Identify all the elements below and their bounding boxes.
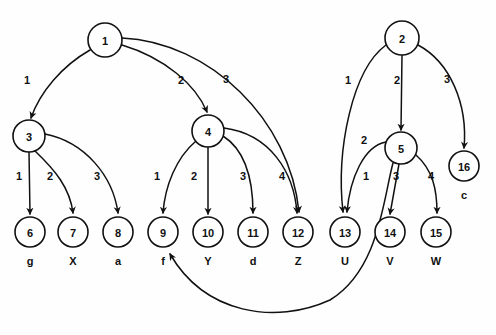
node-label-1: 1 (102, 35, 108, 47)
node-4[interactable]: 4 (192, 115, 224, 147)
node-6[interactable]: 6 (15, 217, 45, 247)
leaf-label-16: c (461, 189, 467, 201)
leaf-label-6: g (27, 255, 34, 267)
node-15[interactable]: 15 (421, 217, 451, 247)
node-2[interactable]: 2 (385, 21, 419, 55)
node-14[interactable]: 14 (375, 217, 405, 247)
node-label-13: 13 (339, 227, 351, 239)
edge-label-n5-n15: 4 (428, 170, 435, 182)
node-7[interactable]: 7 (58, 217, 88, 247)
edge-label-n4-n11: 3 (240, 170, 246, 182)
edge-label-n1-n4: 2 (178, 74, 184, 86)
edge-label-n2-n16: 3 (444, 73, 450, 85)
leaf-label-14: V (386, 255, 394, 267)
edge-label-n3-n6: 1 (16, 170, 22, 182)
leaf-label-9: f (161, 255, 165, 267)
node-label-2: 2 (399, 33, 405, 45)
node-16[interactable]: 16 (449, 151, 479, 181)
edge-label-n1-n12: 3 (223, 73, 229, 85)
node-label-14: 14 (384, 227, 397, 239)
node-13[interactable]: 13 (330, 217, 360, 247)
edge-label-n2-n5: 2 (394, 74, 400, 86)
node-label-16: 16 (458, 161, 470, 173)
node-8[interactable]: 8 (103, 217, 133, 247)
node-5[interactable]: 5 (385, 132, 417, 164)
edge-label-n5-n13: 2 (361, 134, 367, 146)
diagram-canvas: 12345678910111213141516 1231231234123213… (0, 0, 496, 335)
node-label-3: 3 (26, 131, 32, 143)
leaf-label-10: Y (204, 255, 212, 267)
node-10[interactable]: 10 (193, 217, 223, 247)
edge-label-n5-n9: 1 (363, 170, 369, 182)
leaf-label-12: Z (295, 255, 302, 267)
edge-n3-to-n7 (35, 151, 73, 213)
node-label-7: 7 (70, 227, 76, 239)
edge-label-n4-n12: 4 (279, 170, 286, 182)
edge-labels-layer: 12312312341232134 (16, 73, 450, 182)
node-label-8: 8 (115, 227, 121, 239)
leaf-label-11: d (250, 255, 257, 267)
edge-n5-to-n15 (416, 155, 437, 213)
node-label-15: 15 (430, 227, 442, 239)
node-label-4: 4 (205, 126, 212, 138)
node-12[interactable]: 12 (283, 217, 313, 247)
node-label-6: 6 (27, 227, 33, 239)
node-label-12: 12 (292, 227, 304, 239)
edge-n2-to-n5 (401, 55, 402, 130)
edge-n2-to-n16 (418, 45, 465, 148)
node-label-11: 11 (247, 227, 259, 239)
edge-n2-to-n13 (341, 45, 386, 212)
edge-label-n3-n8: 3 (94, 170, 100, 182)
edge-n3-to-n6 (29, 152, 30, 214)
edge-n4-to-n12 (224, 128, 297, 213)
edge-label-n3-n7: 2 (47, 170, 53, 182)
edge-label-n2-n13: 1 (345, 74, 351, 86)
leaf-label-13: U (341, 255, 349, 267)
edge-label-n4-n10: 2 (191, 170, 197, 182)
leaf-label-8: a (115, 255, 122, 267)
node-label-5: 5 (398, 143, 404, 155)
edge-label-n1-n3: 1 (24, 74, 30, 86)
edge-n1-to-n3 (31, 50, 90, 118)
node-label-9: 9 (160, 227, 166, 239)
graph-svg: 12345678910111213141516 1231231234123213… (0, 0, 496, 335)
leaf-label-7: X (69, 255, 77, 267)
edge-n4-to-n11 (223, 136, 253, 213)
node-1[interactable]: 1 (88, 23, 122, 57)
node-11[interactable]: 11 (238, 217, 268, 247)
leaf-label-15: W (431, 255, 442, 267)
node-3[interactable]: 3 (13, 120, 45, 152)
edge-label-n5-n14: 3 (393, 170, 399, 182)
edge-n1-to-n4 (122, 45, 207, 112)
node-9[interactable]: 9 (148, 217, 178, 247)
edge-label-n4-n9: 1 (154, 170, 160, 182)
node-label-10: 10 (202, 227, 214, 239)
